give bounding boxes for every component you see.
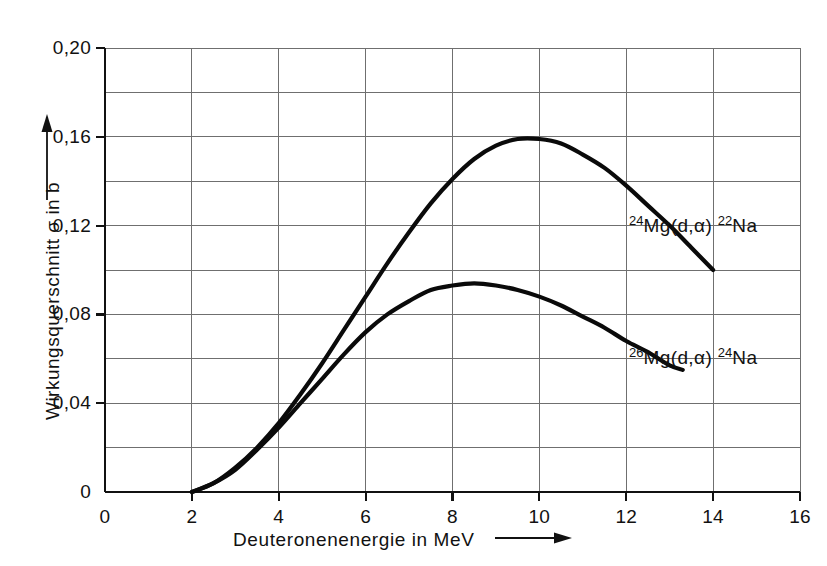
series-label-mg26-product: Na	[732, 347, 757, 368]
x-tick-label: 0	[100, 506, 111, 528]
y-tick-label: 0,20	[8, 37, 91, 59]
series-label-mg26-product-mass: 24	[718, 345, 732, 360]
axis-tick-marks	[96, 48, 800, 501]
chart-canvas	[0, 0, 827, 566]
series-label-mg24-product-mass: 22	[718, 213, 732, 228]
x-tick-label: 2	[186, 506, 197, 528]
series-label-mg24: 24Mg(d,α) 22Na	[629, 213, 757, 237]
series-label-mg24-reaction: Mg(d,α)	[643, 215, 712, 236]
x-axis-title: Deuteronenenergie in MeV	[233, 529, 475, 551]
x-tick-label: 8	[447, 506, 458, 528]
series-label-mg24-mass: 24	[629, 213, 643, 228]
x-tick-label: 14	[702, 506, 724, 528]
series-label-mg26-mass: 26	[629, 345, 643, 360]
x-tick-label: 10	[529, 506, 551, 528]
x-tick-label: 16	[789, 506, 811, 528]
series-label-mg24-product: Na	[732, 215, 757, 236]
x-tick-label: 6	[360, 506, 371, 528]
x-tick-label: 4	[273, 506, 284, 528]
y-axis-title: Wirkungsquerschnitt σ in b	[42, 156, 64, 446]
series-label-mg26-reaction: Mg(d,α)	[643, 347, 712, 368]
y-tick-label: 0,16	[8, 126, 91, 148]
x-axis-arrow-icon	[495, 533, 572, 544]
series-label-mg26: 26Mg(d,α) 24Na	[629, 345, 757, 369]
x-tick-label: 12	[615, 506, 637, 528]
y-tick-label: 0	[8, 481, 91, 503]
cross-section-chart-figure: 00,040,080,120,160,20 0246810121416 Deut…	[0, 0, 827, 566]
